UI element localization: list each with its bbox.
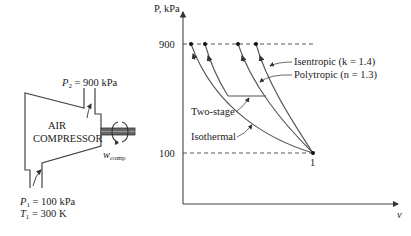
- compressor-label-name: COMPRESSOR: [33, 133, 102, 144]
- compressor-schematic: AIR COMPRESSOR P2 = 900 kPa wcomp P1 = 1…: [19, 77, 135, 221]
- pv-chart: P, kPa v 900 100 1 Isentropic: [154, 3, 402, 220]
- label-isothermal: Isothermal: [191, 131, 236, 142]
- outlet-pressure-label: P2 = 900 kPa: [61, 77, 118, 90]
- y-axis-label: P, kPa: [154, 3, 180, 14]
- inlet-flow-arrow: [33, 170, 41, 186]
- outlet-flow-arrow: [87, 104, 91, 118]
- compressor-pv-diagram: AIR COMPRESSOR P2 = 900 kPa wcomp P1 = 1…: [0, 0, 411, 236]
- label-polytropic: Polytropic (n = 1.3): [294, 69, 377, 81]
- compressor-label-air: AIR: [48, 120, 66, 131]
- tick-900: 900: [159, 39, 175, 50]
- label-isentropic: Isentropic (k = 1.4): [294, 56, 376, 68]
- tick-100: 100: [159, 148, 175, 159]
- work-label: wcomp: [103, 149, 126, 162]
- inlet-temperature-label: T1 = 300 K: [20, 208, 67, 221]
- label-two-stage: Two-stage: [191, 106, 235, 117]
- x-axis-label: v: [397, 209, 402, 220]
- state-1-label: 1: [310, 157, 315, 168]
- curve-two-stage-upper: [205, 44, 228, 96]
